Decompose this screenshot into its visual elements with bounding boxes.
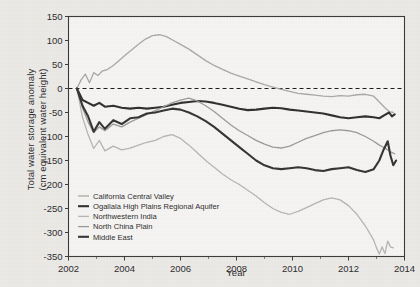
y-tick-label: 0: [57, 83, 62, 94]
x-tick-label: 2014: [394, 263, 415, 274]
y-tick-label: -50: [49, 107, 63, 118]
y-tick-label: -150: [43, 155, 62, 166]
y-tick-label: -100: [43, 131, 62, 142]
legend-label: California Central Valley: [93, 192, 174, 201]
legend-label: North China Plain: [93, 222, 153, 231]
y-tick-label: 50: [52, 59, 63, 70]
y-tick-label: 100: [47, 35, 63, 46]
chart-figure: Total water storage anomaly (cm equivale…: [0, 0, 420, 287]
x-tick-label: 2010: [282, 263, 303, 274]
y-tick-label: -300: [43, 227, 62, 238]
x-tick-label: 2006: [170, 263, 191, 274]
legend-label: Northwestern India: [93, 212, 158, 221]
x-tick-label: 2004: [114, 263, 135, 274]
x-tick-label: 2002: [58, 263, 79, 274]
y-tick-label: 150: [47, 11, 63, 22]
legend-label: Middle East: [93, 233, 134, 242]
x-tick-label: 2012: [338, 263, 359, 274]
y-tick-label: -200: [43, 179, 62, 190]
y-tick-label: -350: [43, 251, 62, 262]
y-tick-label: -250: [43, 203, 62, 214]
plot-area: -350-300-250-200-150-100-500501001502002…: [0, 0, 420, 287]
x-tick-label: 2008: [226, 263, 247, 274]
legend-label: Ogallala High Plains Regional Aquifer: [93, 202, 220, 211]
